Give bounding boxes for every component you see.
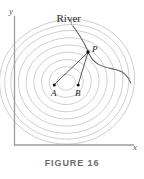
y-axis-label: y — [8, 6, 13, 16]
point-b-label: B — [75, 88, 81, 98]
contour-plot-svg: y x A B P River — [0, 0, 144, 179]
contour-level-1 — [57, 74, 75, 90]
contour-level-4 — [34, 52, 99, 111]
point-b-dot — [77, 84, 80, 87]
segments-group — [54, 53, 88, 85]
figure-caption: FIGURE 16 — [0, 158, 144, 168]
point-a-label: A — [50, 88, 57, 98]
contour-level-6 — [18, 38, 114, 126]
point-p-label: P — [91, 44, 98, 54]
contour-level-7 — [11, 30, 123, 133]
contour-curves-group — [0, 19, 135, 144]
contour-level-5 — [26, 45, 107, 119]
x-axis-label: x — [132, 142, 137, 152]
point-p-dot — [86, 50, 89, 53]
contour-level-8 — [5, 25, 129, 140]
figure-16-container: y x A B P River FIGURE 16 — [0, 0, 144, 179]
point-a-dot — [53, 84, 56, 87]
river-label: River — [57, 12, 82, 24]
